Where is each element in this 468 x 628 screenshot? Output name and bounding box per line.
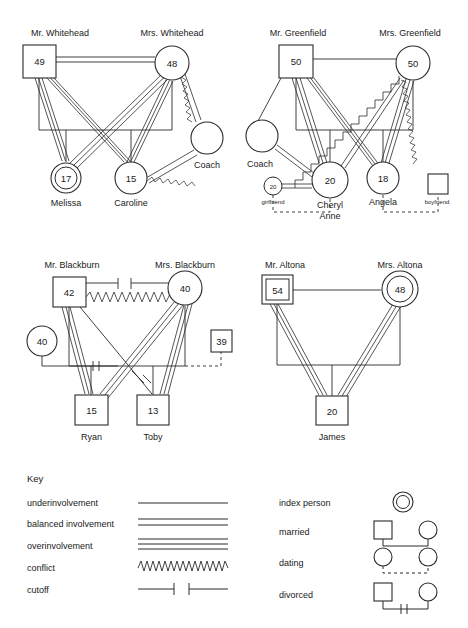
node-label-altona-mother: Mrs. Altona [377, 260, 422, 270]
key-label-conflict: conflict [27, 563, 56, 573]
node-age-ryan: 15 [86, 405, 97, 416]
family-altona: 54 Mr. Altona 48 Mrs. Altona 20 James [262, 260, 423, 442]
key-glyph-dating [374, 548, 437, 573]
node-label-melissa: Melissa [51, 198, 82, 208]
node-label-james: James [319, 432, 346, 442]
node-label-whitehead-father: Mr. Whitehead [31, 28, 89, 38]
key-legend: Key underinvolvement balanced involvemen… [27, 473, 437, 614]
key-label-balanced-involvement: balanced involvement [27, 519, 115, 529]
node-age-blackburn-ex-partner: 40 [37, 336, 48, 347]
node-age-greenfield-father: 50 [291, 56, 302, 67]
node-label-greenfield-coach: Coach [247, 159, 273, 169]
family-blackburn: 42 Mr. Blackburn 40 Mrs. Blackburn 40 39… [27, 260, 232, 442]
node-age-greenfield-mother: 50 [408, 58, 419, 69]
node-age-blackburn-new-partner: 39 [216, 336, 227, 347]
node-label-whitehead-coach: Coach [194, 160, 220, 170]
key-label-divorced: divorced [279, 590, 313, 600]
node-age-altona-father: 54 [272, 285, 283, 296]
node-greenfield-boyfriend[interactable] [428, 174, 448, 194]
genogram-canvas: 49 Mr. Whitehead 48 Mrs. Whitehead 17 Me… [0, 0, 468, 628]
key-title: Key [27, 473, 44, 484]
key-label-cutoff: cutoff [27, 585, 49, 595]
node-label-ryan: Ryan [81, 432, 102, 442]
key-glyph-divorced [374, 583, 437, 614]
node-label-altona-father: Mr. Altona [265, 260, 305, 270]
key-glyph-cutoff-line [138, 583, 228, 595]
node-age-james: 20 [327, 406, 338, 417]
node-label-whitehead-mother: Mrs. Whitehead [140, 28, 203, 38]
node-label-blackburn-mother: Mrs. Blackburn [155, 260, 215, 270]
family-greenfield: 50 Mr. Greenfield 50 Mrs. Greenfield Coa… [246, 28, 449, 212]
key-label-index-person: index person [279, 498, 331, 508]
node-age-angela: 18 [378, 173, 389, 184]
node-label-greenfield-mother: Mrs. Greenfield [379, 28, 441, 38]
key-glyph-triple-line [138, 539, 228, 549]
node-greenfield-coach[interactable] [246, 120, 278, 152]
node-label-caroline: Caroline [114, 198, 148, 208]
node-age-girlfriend: 20 [270, 184, 277, 190]
node-age-altona-mother: 48 [395, 284, 406, 295]
node-label-blackburn-father: Mr. Blackburn [44, 260, 99, 270]
genogram-page: 49 Mr. Whitehead 48 Mrs. Whitehead 17 Me… [0, 0, 468, 628]
node-label-angela: Angela [369, 197, 397, 207]
node-whitehead-coach[interactable] [191, 122, 223, 154]
node-label-cheryl-anne-line1: Cheryl [317, 200, 343, 210]
family-whitehead: 49 Mr. Whitehead 48 Mrs. Whitehead 17 Me… [23, 28, 223, 208]
key-label-married: married [279, 527, 310, 537]
key-label-dating: dating [279, 558, 304, 568]
node-label-girlfriend: girlfriend [261, 199, 284, 205]
node-label-toby: Toby [143, 432, 163, 442]
node-age-cheryl-anne: 20 [325, 175, 336, 186]
key-glyph-married [374, 521, 437, 546]
node-age-whitehead-mother: 48 [167, 58, 178, 69]
node-age-blackburn-father: 42 [64, 287, 75, 298]
node-age-blackburn-mother: 40 [180, 283, 191, 294]
key-glyph-double-line [138, 519, 228, 525]
key-glyph-zigzag-line [138, 561, 228, 571]
node-label-boyfriend: boyfriend [425, 199, 450, 205]
key-label-overinvolvement: overinvolvement [27, 541, 93, 551]
node-age-toby: 13 [148, 405, 159, 416]
node-age-caroline: 15 [126, 173, 137, 184]
key-glyph-double-circle [393, 492, 413, 512]
node-age-whitehead-father: 49 [34, 56, 45, 67]
node-age-melissa: 17 [61, 173, 72, 184]
node-label-greenfield-father: Mr. Greenfield [270, 28, 327, 38]
key-label-underinvolvement: underinvolvement [27, 498, 99, 508]
